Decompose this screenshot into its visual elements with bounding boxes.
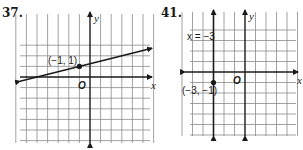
x-axis-label-37: x	[150, 79, 156, 91]
point-37	[77, 64, 82, 69]
point-label-41: (−3, −1)	[182, 85, 217, 96]
graph-37: (−1, 1) x y O	[16, 12, 156, 150]
origin-label-37: O	[78, 80, 86, 91]
graphs-canvas: (−1, 1) x y O (−3, −1) x = −3 x y O	[0, 0, 303, 150]
x-axis-label-41: x	[296, 74, 302, 86]
origin-label-41: O	[233, 75, 241, 86]
graph-41: (−3, −1) x = −3 x y O	[182, 10, 302, 136]
y-axis-label-37: y	[93, 12, 99, 24]
point-label-37: (−1, 1)	[48, 55, 77, 66]
line-label-41: x = −3	[187, 31, 215, 42]
y-axis-label-41: y	[248, 10, 254, 22]
